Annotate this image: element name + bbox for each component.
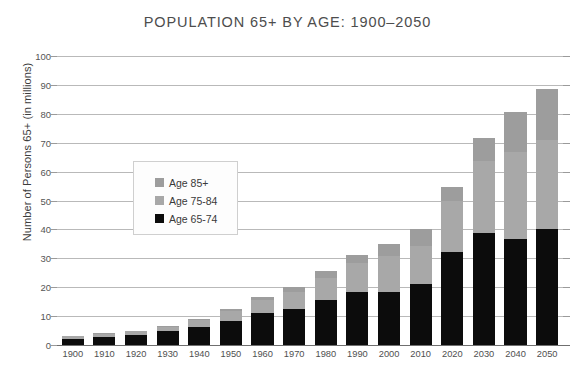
chart-title: POPULATION 65+ BY AGE: 1900–2050 (0, 14, 575, 30)
legend-item-age-75-84: Age 75-84 (155, 193, 237, 208)
bar-segment-age-75-84 (346, 263, 368, 292)
y-axis-tick-right (563, 114, 570, 115)
x-axis-baseline (57, 345, 570, 346)
bar-segment-age-65-74 (220, 321, 242, 345)
bar-segment-age-85 (410, 229, 432, 246)
legend-label-age-65-74: Age 65-74 (169, 213, 217, 225)
legend-item-age-85-plus: Age 85+ (155, 175, 237, 190)
y-axis-tick-label: 60 (11, 166, 51, 177)
x-axis-tick-label-2010: 2010 (410, 349, 431, 359)
y-axis-tick-left (50, 229, 57, 230)
y-axis-tick-right (563, 172, 570, 173)
y-axis-tick-right (563, 201, 570, 202)
y-axis-tick-label: 90 (11, 79, 51, 90)
legend-swatch-age-85-plus-icon (155, 178, 164, 187)
bar-segment-age-85 (473, 138, 495, 160)
legend-swatch-age-65-74-icon (155, 214, 164, 223)
x-axis-tick-label-2030: 2030 (474, 349, 495, 359)
y-axis-tick-label: 30 (11, 253, 51, 264)
y-axis-tick-left (50, 201, 57, 202)
y-axis-tick-left (50, 258, 57, 259)
bar-2010[interactable] (410, 229, 432, 345)
bar-2000[interactable] (378, 244, 400, 345)
x-axis-tick-label-1940: 1940 (189, 349, 210, 359)
bar-2040[interactable] (504, 112, 526, 345)
y-axis-tick-left (50, 85, 57, 86)
y-axis-tick-right (563, 56, 570, 57)
y-axis-tick-label: 50 (11, 195, 51, 206)
bar-segment-age-75-84 (473, 161, 495, 234)
x-axis-tick-labels: 1900191019201930194019501960197019801990… (57, 349, 563, 369)
y-axis-tick-left (50, 143, 57, 144)
x-axis-tick-label-1980: 1980 (315, 349, 336, 359)
bar-segment-age-75-84 (315, 278, 337, 300)
bar-segment-age-75-84 (220, 311, 242, 321)
y-axis-tick-left (50, 114, 57, 115)
bar-1930[interactable] (157, 326, 179, 345)
bar-segment-age-75-84 (441, 201, 463, 251)
y-axis-tick-label: 20 (11, 282, 51, 293)
bar-segment-age-65-74 (188, 327, 210, 345)
x-axis-tick-label-2040: 2040 (505, 349, 526, 359)
bar-segment-age-65-74 (283, 309, 305, 345)
bar-segment-age-65-74 (504, 239, 526, 345)
bar-1920[interactable] (125, 331, 147, 345)
bar-1960[interactable] (251, 297, 273, 345)
legend-label-age-85-plus: Age 85+ (169, 177, 208, 189)
bar-1950[interactable] (220, 309, 242, 345)
x-axis-tick-label-2050: 2050 (537, 349, 558, 359)
bar-segment-age-65-74 (93, 337, 115, 345)
y-axis-tick-label: 0 (11, 340, 51, 351)
bar-segment-age-65-74 (441, 252, 463, 345)
bar-segment-age-65-74 (536, 229, 558, 345)
bar-segment-age-85 (315, 271, 337, 278)
bar-1900[interactable] (62, 336, 84, 345)
legend-swatch-age-75-84-icon (155, 196, 164, 205)
bar-1910[interactable] (93, 333, 115, 345)
y-axis-tick-left (50, 287, 57, 288)
bar-segment-age-75-84 (188, 320, 210, 327)
bar-segment-age-65-74 (410, 284, 432, 345)
bar-2050[interactable] (536, 89, 558, 345)
chart-legend: Age 85+ Age 75-84 Age 65-74 (133, 161, 238, 235)
bar-segment-age-65-74 (157, 331, 179, 345)
bar-segment-age-85 (504, 112, 526, 152)
y-axis-tick-right (563, 143, 570, 144)
bar-segment-age-75-84 (504, 152, 526, 239)
y-axis-tick-labels: 0102030405060708090100 (5, 56, 51, 345)
x-axis-tick-label-1950: 1950 (221, 349, 242, 359)
y-axis-tick-right (563, 316, 570, 317)
bar-segment-age-75-84 (251, 300, 273, 313)
bar-segment-age-75-84 (410, 246, 432, 284)
x-axis-tick-label-2000: 2000 (379, 349, 400, 359)
bar-segment-age-75-84 (536, 140, 558, 229)
bar-1970[interactable] (283, 287, 305, 345)
x-axis-tick-label-1970: 1970 (284, 349, 305, 359)
bar-2020[interactable] (441, 187, 463, 345)
y-axis-tick-label: 100 (11, 51, 51, 62)
y-axis-tick-right (563, 229, 570, 230)
y-axis-tick-right (563, 287, 570, 288)
bar-segment-age-85 (346, 255, 368, 263)
bar-1940[interactable] (188, 319, 210, 345)
bar-segment-age-75-84 (283, 292, 305, 310)
y-axis-tick-label: 80 (11, 108, 51, 119)
y-axis-tick-label: 40 (11, 224, 51, 235)
y-axis-tick-label: 70 (11, 137, 51, 148)
legend-label-age-75-84: Age 75-84 (169, 195, 217, 207)
bar-segment-age-65-74 (473, 233, 495, 345)
y-axis-tick-label: 10 (11, 311, 51, 322)
y-axis-tick-right (563, 258, 570, 259)
y-axis-tick-right (563, 85, 570, 86)
bar-1980[interactable] (315, 271, 337, 345)
bar-segment-age-75-84 (378, 256, 400, 292)
bar-2030[interactable] (473, 138, 495, 345)
bar-1990[interactable] (346, 255, 368, 345)
bar-segment-age-85 (536, 89, 558, 140)
y-axis-tick-left (50, 172, 57, 173)
bar-segment-age-65-74 (251, 313, 273, 345)
bar-segment-age-85 (378, 244, 400, 256)
bar-segment-age-85 (441, 187, 463, 201)
x-axis-tick-label-1910: 1910 (94, 349, 115, 359)
bar-segment-age-65-74 (346, 292, 368, 345)
